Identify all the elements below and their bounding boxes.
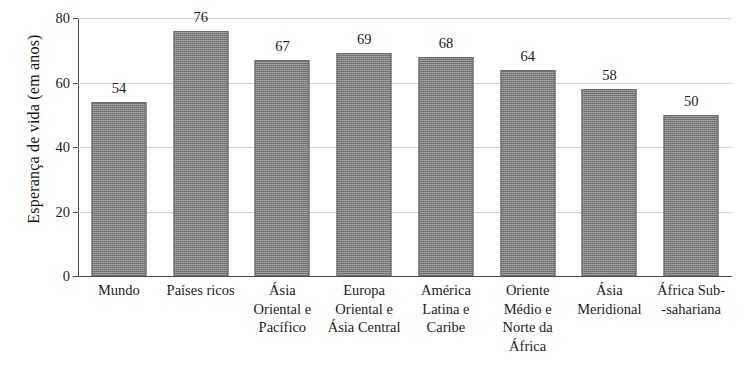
x-axis-category-line: -sahariana <box>650 300 732 319</box>
bar-value-label: 64 <box>520 48 535 65</box>
y-axis-tick-label: 80 <box>56 10 71 27</box>
x-axis-category-line: Oriente <box>487 281 569 300</box>
bar-value-label: 50 <box>684 93 699 110</box>
bar-slot: 69 <box>323 18 405 276</box>
y-axis-tick-label: 20 <box>56 203 71 220</box>
y-axis-tick-label: 60 <box>56 74 71 91</box>
x-axis-category-line: Médio e <box>487 300 569 319</box>
bar[interactable] <box>173 31 228 276</box>
x-axis-category-label: AméricaLatina eCaribe <box>405 281 487 337</box>
x-axis-category-line: Europa <box>323 281 405 300</box>
x-axis-category-line: África <box>487 337 569 356</box>
x-axis-category-label: Mundo <box>78 281 160 300</box>
bar-value-label: 54 <box>112 80 127 97</box>
bar-value-label: 58 <box>602 67 617 84</box>
bar[interactable] <box>418 57 473 276</box>
x-axis-category-line: Países ricos <box>160 281 242 300</box>
x-axis-category-label: África Sub--sahariana <box>650 281 732 318</box>
y-axis-tick-label: 0 <box>63 268 70 285</box>
x-axis-category-label: Países ricos <box>160 281 242 300</box>
x-axis-category-line: Ásia Central <box>323 318 405 337</box>
bar[interactable] <box>337 53 392 276</box>
x-axis-category-line: Pacífico <box>242 318 324 337</box>
bar-slot: 50 <box>650 18 732 276</box>
bar-value-label: 68 <box>439 35 454 52</box>
x-axis-category-line: África Sub- <box>650 281 732 300</box>
bar-slot: 58 <box>569 18 651 276</box>
y-axis-tick-mark <box>73 276 78 277</box>
bar-value-label: 76 <box>193 9 208 26</box>
x-axis-category-line: América <box>405 281 487 300</box>
x-axis-line <box>78 276 732 277</box>
bar[interactable] <box>582 89 637 276</box>
bar-slot: 76 <box>160 18 242 276</box>
bar[interactable] <box>255 60 310 276</box>
bar[interactable] <box>91 102 146 276</box>
y-axis-tick-label: 40 <box>56 139 71 156</box>
x-axis-category-line: Oriental e <box>323 300 405 319</box>
bar-value-label: 67 <box>275 38 290 55</box>
y-axis-title: Esperança de vida (em anos) <box>25 0 43 259</box>
x-axis-category-line: Ásia <box>569 281 651 300</box>
bar-slot: 64 <box>487 18 569 276</box>
x-axis-category-labels: MundoPaíses ricosÁsiaOriental ePacíficoE… <box>78 281 732 367</box>
bar-slot: 67 <box>242 18 324 276</box>
plot-area: 0204060805476676968645850 <box>78 18 732 276</box>
x-axis-category-line: Meridional <box>569 300 651 319</box>
bar-slot: 54 <box>78 18 160 276</box>
bar[interactable] <box>500 70 555 276</box>
bar-chart: Esperança de vida (em anos) 020406080547… <box>0 0 752 370</box>
x-axis-category-label: OrienteMédio eNorte daÁfrica <box>487 281 569 355</box>
x-axis-category-line: Oriental e <box>242 300 324 319</box>
x-axis-category-line: Mundo <box>78 281 160 300</box>
x-axis-category-line: Latina e <box>405 300 487 319</box>
x-axis-category-label: ÁsiaOriental ePacífico <box>242 281 324 337</box>
x-axis-category-line: Norte da <box>487 318 569 337</box>
x-axis-category-line: Ásia <box>242 281 324 300</box>
bar-value-label: 69 <box>357 31 372 48</box>
x-axis-category-line: Caribe <box>405 318 487 337</box>
x-axis-category-label: ÁsiaMeridional <box>569 281 651 318</box>
bar-slot: 68 <box>405 18 487 276</box>
x-axis-category-label: EuropaOriental eÁsia Central <box>323 281 405 337</box>
bar[interactable] <box>664 115 719 276</box>
